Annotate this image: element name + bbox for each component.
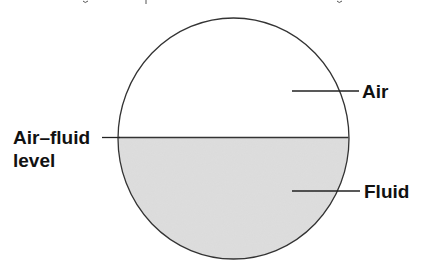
air-fluid-level-label-line1: Air–fluid [13, 126, 90, 149]
air-fluid-level-label: Air–fluid level [13, 126, 90, 172]
diagram-canvas: Air Fluid Air–fluid level [0, 0, 432, 274]
fluid-region [118, 18, 349, 259]
cropped-top-text-fragments [83, 0, 342, 4]
fluid-label: Fluid [364, 180, 409, 203]
air-label: Air [362, 80, 388, 103]
air-fluid-level-label-line2: level [13, 149, 90, 172]
